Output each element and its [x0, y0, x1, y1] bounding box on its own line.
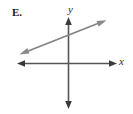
- y-axis-bottom-arrowhead: [65, 101, 72, 109]
- x-axis-left-arrowhead: [17, 60, 25, 67]
- problem-label: E.: [12, 6, 22, 18]
- x-axis-right-arrowhead: [109, 60, 117, 67]
- plotted-line: [25, 22, 101, 52]
- y-axis-label: y: [68, 4, 73, 15]
- x-axis-label: x: [119, 56, 124, 67]
- graph-figure: E. y x: [0, 0, 133, 114]
- plotted-line-left-arrowhead: [20, 48, 30, 55]
- y-axis-top-arrowhead: [65, 17, 72, 25]
- plotted-line-right-arrowhead: [97, 20, 107, 27]
